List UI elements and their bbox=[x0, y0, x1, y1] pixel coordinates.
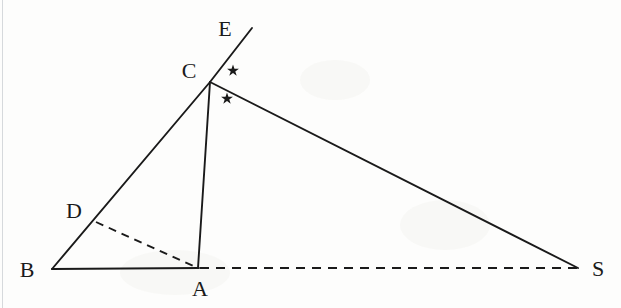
angle-mark-upper-star bbox=[227, 64, 239, 75]
vertex-label-d: D bbox=[66, 200, 82, 222]
vertex-label-e: E bbox=[218, 18, 231, 40]
segment-B-A bbox=[52, 268, 199, 269]
segment-C-A bbox=[198, 82, 210, 268]
angle-mark-lower-star bbox=[221, 92, 233, 103]
geometry-canvas bbox=[0, 0, 621, 308]
vertex-label-c: C bbox=[182, 60, 197, 82]
segment-B-C bbox=[52, 82, 210, 269]
geometry-figure: E C D B A S bbox=[0, 0, 621, 308]
vertex-label-a: A bbox=[192, 278, 208, 300]
vertex-label-b: B bbox=[20, 259, 35, 281]
segment-C-S bbox=[210, 82, 578, 268]
segment-D-A bbox=[96, 222, 198, 268]
vertex-label-s: S bbox=[592, 258, 604, 280]
